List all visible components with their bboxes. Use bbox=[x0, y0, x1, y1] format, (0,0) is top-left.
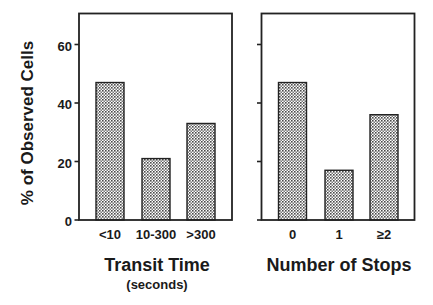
transit-time-panel: 0204060 <1010-300>300 Transit Time (seco… bbox=[58, 14, 232, 293]
y-tick-label: 0 bbox=[65, 214, 72, 229]
y-axis-ticks: 0204060 bbox=[58, 39, 79, 230]
x-tick-label: ≥2 bbox=[377, 227, 391, 242]
bar-10-300 bbox=[142, 159, 170, 220]
bar-<10 bbox=[96, 83, 124, 220]
bar-≥2 bbox=[370, 115, 398, 220]
y-axis-label: % of Observed Cells bbox=[18, 41, 37, 205]
x-tick-label: >300 bbox=[186, 227, 215, 242]
x-tick-label: 0 bbox=[289, 227, 296, 242]
x-axis-subtitle: (seconds) bbox=[126, 277, 187, 292]
x-axis-title: Number of Stops bbox=[266, 255, 411, 275]
x-tick-label: 1 bbox=[335, 227, 342, 242]
y-tick-label: 60 bbox=[58, 39, 72, 54]
y-tick-label: 20 bbox=[58, 156, 72, 171]
x-tick-labels: <1010-300>300 bbox=[99, 227, 216, 242]
bars bbox=[96, 83, 215, 220]
x-axis-title: Transit Time bbox=[104, 255, 210, 275]
x-tick-labels: 01≥2 bbox=[289, 227, 391, 242]
x-tick-label: <10 bbox=[99, 227, 121, 242]
bars bbox=[279, 83, 399, 220]
bar-chart-figure: % of Observed Cells 0204060 <1010-300>30… bbox=[0, 0, 433, 305]
y-tick-label: 40 bbox=[58, 97, 72, 112]
x-tick-label: 10-300 bbox=[136, 227, 176, 242]
bar-1 bbox=[325, 170, 353, 220]
number-of-stops-panel: 01≥2 Number of Stops bbox=[257, 14, 415, 276]
bar-0 bbox=[279, 83, 307, 220]
bar->300 bbox=[187, 123, 215, 220]
